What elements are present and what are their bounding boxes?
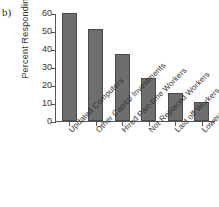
bar-chart: Percent Responding 0102030405060 Updated… (0, 0, 219, 207)
x-axis-labels: Updated ComputersOther Capital Investmen… (0, 0, 219, 207)
